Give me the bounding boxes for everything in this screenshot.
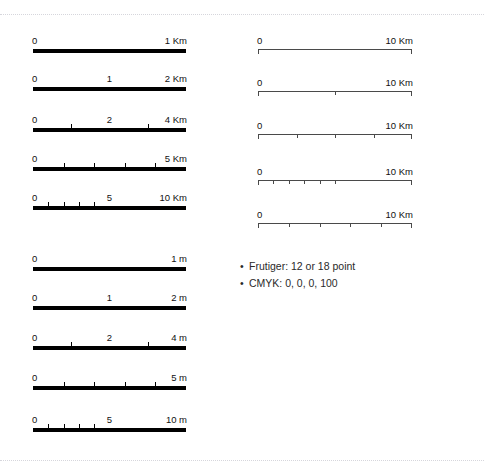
scalebar-m-2: 012 m [33, 290, 186, 316]
scalebar-label-mid: 5 [107, 193, 112, 203]
scalebar-hair-10km-e: 010 Km [258, 207, 412, 233]
scalebar-tick [289, 223, 290, 227]
scalebar-label-start: 0 [257, 210, 262, 220]
scalebar-tick [64, 163, 65, 167]
scalebar-label-end: 10 Km [386, 210, 413, 220]
scalebar-tick [155, 163, 156, 167]
scalebar-tick [335, 91, 336, 95]
scalebar-label-start: 0 [32, 154, 37, 164]
scalebar-tick [297, 134, 298, 138]
scalebar-tick [304, 180, 305, 184]
scalebar-km-4: 024 Km [33, 112, 186, 138]
scalebar-track [258, 223, 412, 224]
scalebar-label-mid: 2 [107, 115, 112, 125]
scalebar-labels: 05 Km [33, 151, 186, 164]
scalebar-tick [125, 163, 126, 167]
trim-guide-bottom [0, 460, 484, 461]
scalebar-tick [381, 223, 382, 227]
scalebar-track [258, 134, 412, 135]
scalebar-label-start: 0 [32, 415, 37, 425]
scalebar-label-end: 10 Km [160, 193, 187, 203]
scalebar-end-cap-left [258, 223, 259, 228]
scalebar-tick [64, 202, 65, 206]
scalebar-label-mid: 1 [107, 293, 112, 303]
scalebar-tick [374, 134, 375, 138]
specification-notes: •Frutiger: 12 or 18 point •CMYK: 0, 0, 0… [240, 258, 440, 292]
scalebar-end-cap-right [411, 134, 412, 139]
scalebar-tick [125, 382, 126, 386]
scalebar-tick [320, 180, 321, 184]
scalebar-labels: 0510 m [33, 412, 186, 425]
scalebar-label-end: 2 m [171, 293, 187, 303]
scalebar-label-end: 1 Km [165, 36, 187, 46]
scalebar-track [33, 306, 186, 310]
scalebar-tick [148, 342, 149, 346]
scalebar-label-start: 0 [32, 193, 37, 203]
scalebar-label-end: 5 Km [165, 154, 187, 164]
scalebar-label-start: 0 [32, 333, 37, 343]
scalebar-labels: 010 Km [258, 75, 412, 88]
scalebar-labels: 010 Km [258, 118, 412, 131]
scalebar-track [33, 386, 186, 390]
scalebar-label-end: 5 m [171, 373, 187, 383]
scalebar-label-start: 0 [257, 36, 262, 46]
scalebar-label-start: 0 [32, 74, 37, 84]
scalebar-hair-10km-b: 010 Km [258, 75, 412, 101]
scalebar-label-start: 0 [257, 167, 262, 177]
scalebar-hair-10km-a: 010 Km [258, 33, 412, 59]
scalebar-track [33, 128, 186, 132]
scalebar-label-end: 4 Km [165, 115, 187, 125]
scalebar-track [33, 87, 186, 91]
scalebar-labels: 024 Km [33, 112, 186, 125]
scalebar-tick [48, 202, 49, 206]
scalebar-label-start: 0 [257, 78, 262, 88]
scalebar-tick [79, 202, 80, 206]
scalebar-label-end: 2 Km [165, 74, 187, 84]
scalebar-tick [155, 382, 156, 386]
scalebar-track [258, 180, 412, 181]
note-text-color: CMYK: 0, 0, 0, 100 [249, 277, 338, 289]
scalebar-tick [79, 424, 80, 428]
scalebar-label-end: 10 Km [386, 121, 413, 131]
scalebar-km-1: 01 Km [33, 33, 186, 59]
scalebar-label-mid: 5 [107, 415, 112, 425]
scalebar-track [33, 206, 186, 210]
scalebar-label-end: 10 Km [386, 36, 413, 46]
scalebar-label-start: 0 [32, 373, 37, 383]
scalebar-label-start: 0 [257, 121, 262, 131]
trim-guide-top [0, 14, 484, 15]
scalebar-label-mid: 1 [107, 74, 112, 84]
scalebar-m-10: 0510 m [33, 412, 186, 438]
scalebar-label-end: 10 Km [386, 167, 413, 177]
scalebar-m-5: 05 m [33, 370, 186, 396]
scalebar-m-4: 024 m [33, 330, 186, 356]
scalebar-track [33, 167, 186, 171]
scalebar-tick [94, 424, 95, 428]
scalebar-tick [273, 180, 274, 184]
note-text-typeface: Frutiger: 12 or 18 point [249, 260, 355, 272]
scalebar-km-5: 05 Km [33, 151, 186, 177]
scalebar-label-end: 10 Km [386, 78, 413, 88]
scalebar-label-end: 4 m [171, 333, 187, 343]
scalebar-track [33, 267, 186, 271]
scalebar-tick [94, 382, 95, 386]
scalebar-end-cap-left [258, 134, 259, 139]
note-line: •CMYK: 0, 0, 0, 100 [240, 275, 440, 292]
spec-sheet: 01 Km012 Km024 Km05 Km0510 Km01 m012 m02… [0, 0, 484, 471]
scalebar-labels: 010 Km [258, 207, 412, 220]
scalebar-tick [94, 202, 95, 206]
note-line: •Frutiger: 12 or 18 point [240, 258, 440, 275]
scalebar-tick [48, 424, 49, 428]
bullet-icon: • [240, 258, 249, 275]
scalebar-labels: 01 m [33, 251, 186, 264]
scalebar-tick [335, 134, 336, 138]
scalebar-end-cap-right [411, 223, 412, 228]
scalebar-end-cap-left [258, 91, 259, 96]
scalebar-label-end: 1 m [171, 254, 187, 264]
scalebar-labels: 01 Km [33, 33, 186, 46]
scalebar-tick [64, 424, 65, 428]
scalebar-labels: 010 Km [258, 164, 412, 177]
scalebar-labels: 0510 Km [33, 190, 186, 203]
scalebar-labels: 05 m [33, 370, 186, 383]
scalebar-labels: 010 Km [258, 33, 412, 46]
